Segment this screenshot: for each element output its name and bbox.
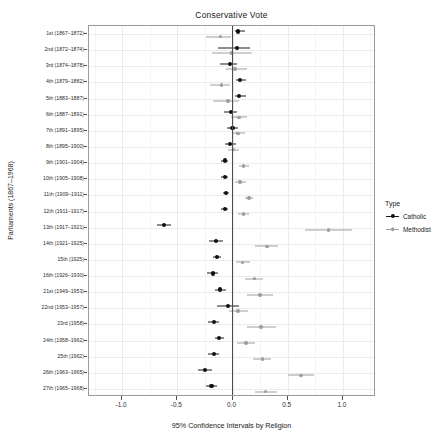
y-axis-label: 13th (1917–1921): [16, 224, 84, 230]
estimate-point: [242, 164, 246, 168]
legend-key-icon: [385, 212, 400, 220]
x-axis-tick-labels: -1.0-0.50.00.51.0: [88, 401, 375, 413]
x-axis-label: 1.0: [337, 401, 346, 408]
plot-panel: [88, 25, 375, 396]
y-axis-tick: [84, 340, 87, 341]
estimate-point: [258, 293, 262, 297]
y-axis-tick: [84, 65, 87, 66]
estimate-point: [233, 67, 237, 71]
y-axis-tick: [84, 356, 87, 357]
estimate-point: [203, 368, 207, 372]
estimate-point: [226, 304, 230, 308]
legend-item-methodist[interactable]: Methodist: [385, 225, 445, 233]
y-axis-tick: [84, 49, 87, 50]
y-axis-tick: [84, 178, 87, 179]
estimate-point: [237, 116, 241, 120]
x-axis-tick: [176, 396, 177, 400]
estimate-point: [214, 239, 218, 243]
estimate-point: [261, 357, 265, 361]
y-axis-label: 11th (1909–1911): [16, 191, 84, 197]
y-axis-label: 21st (1949–1953): [16, 288, 84, 294]
estimate-point: [236, 29, 240, 33]
estimate-point: [247, 196, 251, 200]
y-axis-label: 7th (1891–1895): [16, 127, 84, 133]
y-axis-label: 9th (1901–1904): [16, 159, 84, 165]
estimate-point: [215, 255, 219, 259]
y-axis-label: 6th (1887–1891): [16, 111, 84, 117]
y-axis-label: 22nd (1953–1957): [16, 304, 84, 310]
y-axis-tick: [84, 259, 87, 260]
y-axis-tick: [84, 81, 87, 82]
estimate-point: [219, 35, 223, 39]
y-axis-label: 14th (1921–1925): [16, 240, 84, 246]
estimate-point: [224, 191, 228, 195]
y-axis-label: 24th (1958–1962): [16, 337, 84, 343]
y-axis-label: 23rd (1958): [16, 320, 84, 326]
y-axis-label: 1st (1867–1872): [16, 30, 84, 36]
y-axis-label: 4th (1879–1882): [16, 78, 84, 84]
legend-label: Catholic: [403, 213, 426, 220]
zero-reference-line: [232, 26, 233, 395]
y-axis-tick: [84, 146, 87, 147]
y-axis-label: 15th (1925): [16, 256, 84, 262]
estimate-point: [327, 228, 331, 232]
x-axis-tick: [232, 396, 233, 400]
x-axis-tick: [121, 396, 122, 400]
estimate-point: [226, 99, 230, 103]
y-axis-label: 16th (1926–1930): [16, 272, 84, 278]
estimate-point: [264, 390, 268, 394]
y-axis-label: 26th (1963–1965): [16, 369, 84, 375]
y-axis-label: 12th (1911–1917): [16, 208, 84, 214]
x-axis-tick: [287, 396, 288, 400]
estimate-point: [223, 158, 227, 162]
x-axis-title: 95% Confidence Intervals by Religion: [88, 421, 375, 430]
estimate-point: [242, 212, 246, 216]
estimate-point: [265, 245, 269, 249]
y-axis-tick: [84, 323, 87, 324]
y-axis-label: 8th (1895–1900): [16, 143, 84, 149]
y-axis-tick: [84, 33, 87, 34]
estimate-point: [237, 94, 241, 98]
y-axis-tick: [84, 291, 87, 292]
y-axis-tick: [84, 211, 87, 212]
estimate-point: [217, 336, 221, 340]
estimate-point: [299, 374, 303, 378]
y-axis-tick: [84, 114, 87, 115]
estimate-point: [253, 277, 257, 281]
x-axis-tick: [342, 396, 343, 400]
y-axis-tick: [84, 243, 87, 244]
estimate-point: [241, 261, 245, 265]
estimate-point: [238, 180, 242, 184]
y-axis-tick: [84, 307, 87, 308]
estimate-point: [209, 384, 213, 388]
estimate-point: [162, 223, 166, 227]
y-axis-tick: [84, 162, 87, 163]
estimate-point: [211, 271, 215, 275]
estimate-point: [238, 78, 242, 82]
y-axis-label: 2nd (1872–1874): [16, 46, 84, 52]
legend-items: CatholicMethodist: [385, 212, 445, 233]
estimate-point: [223, 207, 227, 211]
y-axis-tick: [84, 130, 87, 131]
x-axis-label: -0.5: [171, 401, 182, 408]
estimate-point: [218, 287, 222, 291]
x-axis-label: -1.0: [116, 401, 127, 408]
estimate-point: [236, 309, 240, 313]
y-axis-label: 3rd (1874–1878): [16, 62, 84, 68]
estimate-point: [236, 132, 240, 136]
y-axis-tick: [84, 227, 87, 228]
estimate-point: [235, 46, 239, 50]
estimate-point: [220, 83, 224, 87]
estimate-point: [212, 320, 216, 324]
legend-item-catholic[interactable]: Catholic: [385, 212, 445, 220]
y-axis-tick: [84, 98, 87, 99]
x-axis-label: 0.0: [227, 401, 236, 408]
estimate-point: [244, 341, 248, 345]
y-axis-label: 10th (1905–1908): [16, 175, 84, 181]
legend-label: Methodist: [403, 226, 431, 233]
y-axis-label: 25th (1962): [16, 353, 84, 359]
y-axis-tick-labels: 1st (1867–1872)2nd (1872–1874)3rd (1874–…: [14, 25, 84, 396]
estimate-point: [223, 175, 227, 179]
y-axis-tick: [84, 372, 87, 373]
y-axis-label: 5th (1883–1887): [16, 95, 84, 101]
